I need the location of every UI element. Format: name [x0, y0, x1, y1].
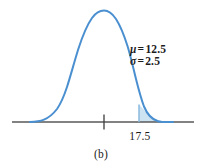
mean-value: 12.5 — [145, 43, 166, 55]
normal-distribution-figure: μ=12.5 σ=2.5 17.5 (b) — [0, 0, 201, 168]
std-dev-equals-sign: = — [136, 55, 145, 67]
distribution-plot — [0, 0, 201, 168]
distribution-parameters: μ=12.5 σ=2.5 — [130, 43, 166, 68]
std-dev-annotation: σ=2.5 — [130, 55, 166, 67]
mean-annotation: μ=12.5 — [130, 43, 166, 55]
std-dev-value: 2.5 — [145, 55, 160, 67]
mu-symbol: μ — [130, 43, 137, 55]
x-axis-tick-label-17-5: 17.5 — [120, 130, 160, 142]
figure-caption: (b) — [71, 148, 131, 160]
